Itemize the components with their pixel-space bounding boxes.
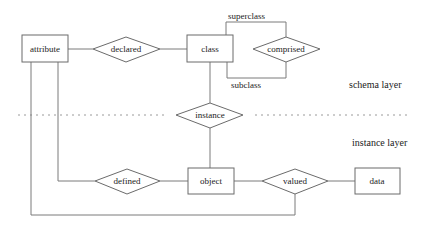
- edge-superclass: [226, 22, 286, 37]
- entity-object-label: object: [200, 176, 222, 186]
- layer-label-schema: schema layer: [349, 79, 402, 90]
- er-diagram: attribute class object data declared com…: [0, 0, 425, 227]
- relationship-valued[interactable]: valued: [262, 169, 328, 194]
- relationship-valued-label: valued: [283, 176, 307, 186]
- relationship-instance-label: instance: [195, 110, 225, 120]
- entity-attribute[interactable]: attribute: [22, 35, 68, 62]
- edge-label-superclass: superclass: [228, 11, 265, 21]
- entity-object[interactable]: object: [188, 168, 234, 194]
- entity-data[interactable]: data: [355, 168, 400, 194]
- relationship-comprised-label: comprised: [267, 44, 305, 54]
- relationship-defined[interactable]: defined: [95, 169, 160, 194]
- entity-attribute-label: attribute: [30, 44, 60, 54]
- edge-attribute-defined: [58, 62, 95, 181]
- relationship-defined-label: defined: [114, 176, 141, 186]
- entity-class[interactable]: class: [187, 35, 233, 62]
- entity-class-label: class: [201, 44, 219, 54]
- edge-label-subclass: subclass: [231, 80, 261, 90]
- relationship-declared[interactable]: declared: [93, 37, 160, 62]
- entity-data-label: data: [370, 176, 385, 186]
- relationship-comprised[interactable]: comprised: [253, 37, 320, 62]
- relationship-declared-label: declared: [111, 44, 142, 54]
- layer-label-instance: instance layer: [352, 137, 408, 148]
- edge-subclass: [227, 62, 286, 78]
- relationship-instance[interactable]: instance: [176, 103, 243, 128]
